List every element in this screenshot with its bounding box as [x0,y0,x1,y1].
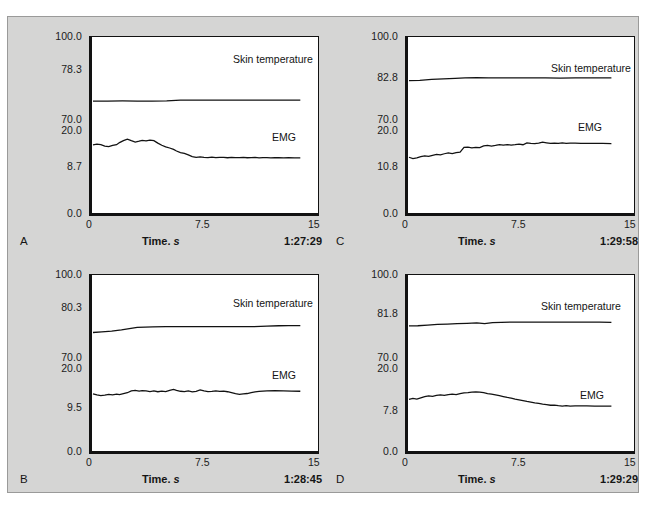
y-tick-label: 20.0 [61,362,82,374]
chart-panel-c: 100.0 82.8 70.0 20.0 10.8 0.0 Skin tempe… [324,17,640,255]
skin-temperature-trace [409,322,611,326]
x-axis-unit: s [174,473,180,485]
plot-area-b: Skin temperature EMG [89,274,319,454]
y-tick-label: 8.7 [67,160,82,172]
y-tick-label: 20.0 [377,124,398,136]
emg-trace [93,139,300,158]
x-axis-unit: s [490,235,496,247]
timestamp-d: 1:29:29 [600,473,638,485]
series-label-skin-temperature: Skin temperature [541,300,621,312]
series-label-emg: EMG [272,131,296,143]
panel-letter-c: C [336,235,344,247]
x-tick-label: 15 [308,456,320,468]
x-axis-title-text: Time. [142,473,171,485]
x-axis-title-text: Time. [458,473,487,485]
y-axis-labels-a: 100.0 78.3 70.0 20.0 8.7 0.0 [8,17,86,237]
emg-trace [409,142,611,158]
x-axis-labels-d: 0 7.5 15 [405,456,637,472]
chart-panel-d: 100.0 81.8 70.0 20.0 7.8 0.0 Skin temper… [324,255,640,493]
x-tick-label: 15 [624,218,636,230]
panel-letter-d: D [336,473,344,485]
x-axis-labels-a: 0 7.5 15 [89,218,321,234]
x-tick-label: 0 [86,456,92,468]
skin-temperature-trace [93,326,300,333]
x-tick-label: 0 [86,218,92,230]
x-axis-labels-c: 0 7.5 15 [405,218,637,234]
timestamp-a: 1:27:29 [284,235,322,247]
x-axis-title-text: Time. [458,235,487,247]
x-axis-title: Time. s [142,235,180,247]
y-tick-label: 100.0 [371,30,398,42]
y-axis-labels-c: 100.0 82.8 70.0 20.0 10.8 0.0 [324,17,402,237]
y-tick-label: 0.0 [383,445,398,457]
y-tick-label: 80.3 [61,301,82,313]
panel-letter-a: A [20,235,28,247]
plot-area-d: Skin temperature EMG [405,274,635,454]
x-tick-label: 0 [402,218,408,230]
series-label-skin-temperature: Skin temperature [233,53,313,65]
y-tick-label: 0.0 [383,207,398,219]
y-tick-label: 82.8 [377,71,398,83]
x-axis-unit: s [490,473,496,485]
skin-temperature-trace [93,100,300,101]
x-axis-title: Time. s [458,235,496,247]
series-label-emg: EMG [580,389,604,401]
x-tick-label: 7.5 [195,456,210,468]
panel-letter-b: B [20,473,28,485]
y-tick-label: 100.0 [55,268,82,280]
panel-caption-b: B Time. s 1:28:45 [8,473,324,491]
y-tick-label: 0.0 [67,207,82,219]
panel-caption-c: C Time. s 1:29:58 [324,235,640,253]
y-tick-label: 78.3 [61,63,82,75]
x-tick-label: 7.5 [195,218,210,230]
y-tick-label: 20.0 [61,124,82,136]
chart-panel-b: 100.0 80.3 70.0 20.0 9.5 0.0 Skin temper… [8,255,324,493]
x-axis-labels-b: 0 7.5 15 [89,456,321,472]
panel-caption-d: D Time. s 1:29:29 [324,473,640,491]
figure-panel-container: 100.0 78.3 70.0 20.0 8.7 0.0 Skin temper… [7,16,639,493]
y-axis-labels-d: 100.0 81.8 70.0 20.0 7.8 0.0 [324,255,402,475]
x-tick-label: 15 [624,456,636,468]
timestamp-b: 1:28:45 [284,473,322,485]
plot-area-c: Skin temperature EMG [405,36,635,216]
y-tick-label: 10.8 [377,160,398,172]
x-tick-label: 7.5 [511,456,526,468]
series-label-emg: EMG [578,121,602,133]
x-axis-title: Time. s [142,473,180,485]
y-tick-label: 81.8 [377,307,398,319]
x-tick-label: 7.5 [511,218,526,230]
x-tick-label: 15 [308,218,320,230]
series-label-emg: EMG [272,369,296,381]
y-tick-label: 20.0 [377,362,398,374]
series-label-skin-temperature: Skin temperature [233,297,313,309]
chart-panel-a: 100.0 78.3 70.0 20.0 8.7 0.0 Skin temper… [8,17,324,255]
y-tick-label: 0.0 [67,445,82,457]
x-axis-title: Time. s [458,473,496,485]
y-tick-label: 9.5 [67,401,82,413]
panel-caption-a: A Time. s 1:27:29 [8,235,324,253]
timestamp-c: 1:29:58 [600,235,638,247]
y-tick-label: 7.8 [383,404,398,416]
series-label-skin-temperature: Skin temperature [551,62,631,74]
x-tick-label: 0 [402,456,408,468]
x-axis-unit: s [174,235,180,247]
x-axis-title-text: Time. [142,235,171,247]
y-tick-label: 100.0 [371,268,398,280]
y-axis-labels-b: 100.0 80.3 70.0 20.0 9.5 0.0 [8,255,86,475]
y-tick-label: 100.0 [55,30,82,42]
skin-temperature-trace [409,78,611,81]
emg-trace [93,389,300,395]
plot-area-a: Skin temperature EMG [89,36,319,216]
